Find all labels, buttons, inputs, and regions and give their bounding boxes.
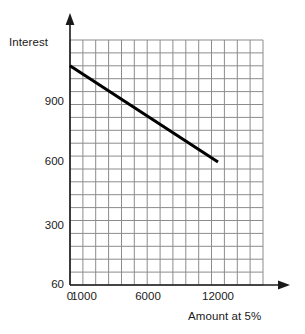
x-tick-label-1000: 1000 <box>54 290 114 302</box>
y-tick-label-300: 300 <box>18 219 64 231</box>
y-tick-label-600: 600 <box>18 155 64 167</box>
x-tick-label-6000: 6000 <box>118 290 178 302</box>
x-axis-title: Amount at 5% <box>188 310 261 322</box>
x-tick-label-12000: 12000 <box>188 290 248 302</box>
x-axis-arrow-icon <box>278 281 290 290</box>
y-axis-title: Interest <box>9 36 48 48</box>
y-tick-label-900: 900 <box>18 95 64 107</box>
y-tick-label-60: 60 <box>18 278 64 290</box>
plot-background <box>70 40 263 285</box>
y-axis-arrow-icon <box>66 13 75 25</box>
chart-container: Interest Amount at 5% 900 600 300 60 0 1… <box>0 0 305 334</box>
